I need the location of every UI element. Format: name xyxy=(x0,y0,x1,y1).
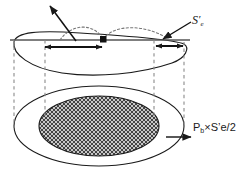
se-leader-arrow xyxy=(163,22,191,39)
bottom-ellipse-group xyxy=(14,86,184,166)
stress-amplitude-label: S′e xyxy=(192,14,204,28)
pressure-cone-diagram xyxy=(0,0,252,172)
diagram-canvas: S′e Pb×S’e/2 xyxy=(0,0,252,172)
dimension-arrows-group xyxy=(45,36,183,47)
bottom-inner-hatched-ellipse xyxy=(39,96,159,156)
bolt-force-suffix: ×S’e/2 xyxy=(204,121,236,133)
contact-point-marker xyxy=(100,36,107,43)
bolt-force-label: Pb×S’e/2 xyxy=(193,122,236,134)
stress-amplitude-subscript: e xyxy=(200,20,203,28)
